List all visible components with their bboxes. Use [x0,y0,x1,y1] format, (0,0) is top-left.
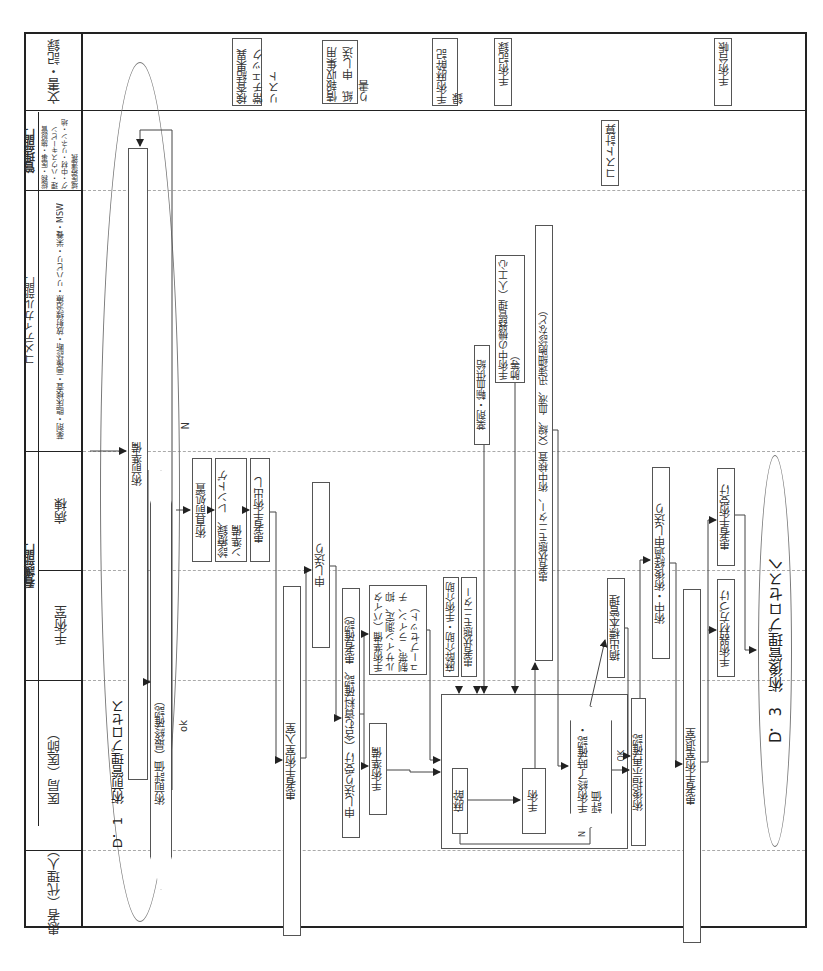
connector-lines [0,0,823,971]
